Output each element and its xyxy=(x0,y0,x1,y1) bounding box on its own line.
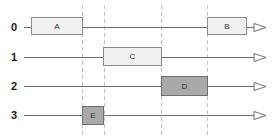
task-box-e: E xyxy=(82,106,104,125)
arrowhead-icon xyxy=(254,24,266,32)
row-label-0: 0 xyxy=(8,21,20,33)
row-label-2: 2 xyxy=(8,80,20,92)
arrowhead-icon xyxy=(254,83,266,91)
arrowhead-icon xyxy=(254,112,266,120)
row-label-3: 3 xyxy=(8,109,20,121)
task-label-a: A xyxy=(54,22,59,31)
task-box-c: C xyxy=(103,47,162,66)
arrowhead-icon xyxy=(254,54,266,62)
task-label-d: D xyxy=(182,82,188,91)
task-box-a: A xyxy=(31,17,83,35)
timeline-diagram: 0 1 2 3 A B C D E xyxy=(0,0,277,138)
task-label-b: B xyxy=(224,22,229,31)
task-label-c: C xyxy=(130,52,136,61)
task-box-b: B xyxy=(207,17,247,35)
row-axes xyxy=(24,24,266,120)
task-box-d: D xyxy=(161,76,208,96)
task-label-e: E xyxy=(90,111,95,120)
row-label-1: 1 xyxy=(8,51,20,63)
